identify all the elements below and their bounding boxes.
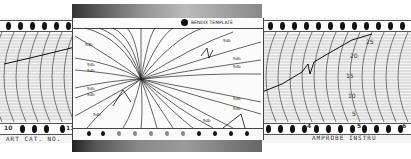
right-chart-strip: 25 20 15 10 5 4 5 6 AMPROBE INSTRU [262,18,411,143]
sprocket-hole [149,131,153,136]
chart-grid [262,32,411,122]
line-label: 5db [233,56,241,61]
sprocket-hole [376,22,381,30]
scale-label: 5 [352,110,356,117]
sprocket-hole [328,22,333,30]
sprocket-hole [245,131,249,136]
sprocket-rail-top [262,20,411,32]
sprocket-hole [304,22,309,30]
sprocket-hole [352,22,357,30]
sprocket-hole [362,125,367,133]
sprocket-hole [197,131,201,136]
sprocket-hole [400,22,405,30]
line-label: 5db [87,68,95,73]
overlay-frame-top [72,4,262,18]
sprocket-hole [268,22,273,30]
overlay-panel: BENDIX TEMPLATE [72,18,264,140]
line-label: 5db [233,64,241,69]
sprocket-hole [133,131,137,136]
sprocket-hole [266,125,271,133]
line-label: 5db [203,118,211,123]
sprocket-hole [386,125,391,133]
line-label: 5db [87,62,95,67]
sprocket-hole [32,125,37,133]
sprocket-hole [54,22,59,30]
scale-number: 5 [357,122,361,129]
sprocket-hole [338,125,343,133]
sprocket-hole [314,125,319,133]
manufacturer-text: AMPROBE INSTRU [312,134,377,141]
sprocket-hole [374,125,379,133]
scale-label: 25 [366,38,374,45]
line-label: 5db [93,112,101,117]
scale-label: 20 [350,52,358,59]
line-label: 5db [87,86,95,91]
overlay-template: BENDIX TEMPLATE [62,4,262,152]
overlay-frame-bottom [72,140,262,152]
catalog-text: ART CAT. NO. [6,135,61,142]
fan-lines [73,18,263,140]
sprocket-hole [117,131,121,136]
line-label: 5db [233,106,241,111]
sprocket-hole [30,22,35,30]
sprocket-hole [6,22,11,30]
sprocket-hole [229,131,233,136]
sprocket-hole [326,125,331,133]
sprocket-hole [165,131,169,136]
scale-number: 6 [402,122,406,129]
sprocket-hole [340,22,345,30]
scale-label: 10 [348,92,356,99]
sprocket-hole [280,22,285,30]
sprocket-hole [87,131,91,136]
sprocket-hole [278,125,283,133]
line-label: 5db [233,96,241,101]
sprocket-hole [181,131,185,136]
sprocket-hole [388,22,393,30]
sprocket-hole [213,131,217,136]
scale-label: 15 [346,72,354,79]
sprocket-hole [350,125,355,133]
sprocket-hole [20,125,25,133]
sprocket-hole [292,22,297,30]
line-label: 5db [87,92,95,97]
scale-number: 10 [4,124,12,131]
line-label: 5db [85,42,93,47]
sprocket-hole [18,22,23,30]
line-label: 5db [223,38,231,43]
sprocket-hole [290,125,295,133]
sprocket-hole [364,22,369,30]
sprocket-hole [101,131,105,136]
sprocket-hole [316,22,321,30]
sprocket-hole [42,22,47,30]
scale-number: 4 [307,122,311,129]
sprocket-hole [44,125,49,133]
